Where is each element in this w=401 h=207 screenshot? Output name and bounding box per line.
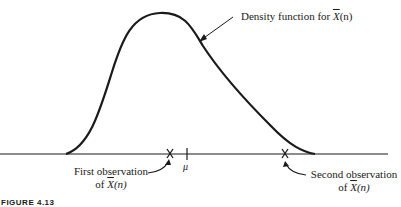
curve-label-arrow-icon <box>199 17 233 42</box>
first-obs-arg: (n) <box>114 178 127 190</box>
second-obs-of: of <box>338 181 350 193</box>
first-obs-var: X <box>107 178 114 190</box>
first-observation-label: First observation of X(n) <box>73 165 149 191</box>
first-obs-line1: First observation <box>73 165 149 178</box>
density-figure: Density function for X(n) μ First observ… <box>0 0 401 207</box>
figure-caption: FIGURE 4.13 <box>1 198 55 207</box>
curve-label-var: X <box>333 10 340 22</box>
second-obs-arg: (n) <box>357 181 370 193</box>
second-obs-line1: Second observation <box>308 168 400 181</box>
curve-label: Density function for X(n) <box>241 10 353 23</box>
second-obs-line2: of X(n) <box>308 181 400 194</box>
second-obs-arrow-icon <box>283 161 306 175</box>
first-obs-line2: of X(n) <box>73 178 149 191</box>
curve-label-arg: (n) <box>340 10 353 22</box>
curve-label-text: Density function for <box>241 10 333 22</box>
second-observation-label: Second observation of X(n) <box>308 168 400 194</box>
first-obs-arrow-icon <box>148 159 171 173</box>
second-obs-var: X <box>350 181 357 193</box>
density-curve <box>66 13 315 154</box>
mu-label: μ <box>183 161 188 172</box>
first-obs-of: of <box>95 178 107 190</box>
